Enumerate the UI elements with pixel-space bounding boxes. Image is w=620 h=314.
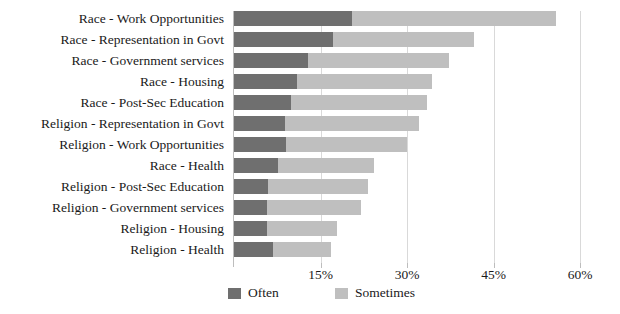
bar-row — [234, 53, 580, 68]
stacked-bar — [234, 11, 556, 26]
bar-row — [234, 95, 580, 110]
category-label: Religion - Housing — [0, 221, 224, 236]
stacked-bar — [234, 221, 337, 236]
stacked-bar — [234, 32, 474, 47]
legend-label: Sometimes — [355, 286, 415, 300]
category-label: Race - Representation in Govt — [0, 32, 224, 47]
category-label: Religion - Work Opportunities — [0, 137, 224, 152]
category-label: Religion - Government services — [0, 200, 224, 215]
bar-row — [234, 221, 580, 236]
bar-segment-sometimes — [267, 221, 337, 236]
bar-segment-sometimes — [308, 53, 449, 68]
bar-segment-sometimes — [297, 74, 433, 89]
stacked-bar — [234, 116, 419, 131]
stacked-bar — [234, 137, 407, 152]
category-label: Religion - Health — [0, 242, 224, 257]
legend-item-often[interactable]: Often — [228, 286, 279, 300]
bar-segment-sometimes — [285, 116, 419, 131]
stacked-bar-chart: Race - Work OpportunitiesRace - Represen… — [0, 0, 620, 314]
stacked-bar — [234, 74, 432, 89]
bar-row — [234, 200, 580, 215]
bar-rows — [234, 11, 580, 263]
category-label: Religion - Post-Sec Education — [0, 179, 224, 194]
bar-segment-sometimes — [333, 32, 474, 47]
bar-segment-often — [234, 32, 333, 47]
category-label: Race - Post-Sec Education — [0, 95, 224, 110]
x-tick-label: 30% — [395, 267, 420, 283]
bar-row — [234, 179, 580, 194]
bar-row — [234, 137, 580, 152]
x-axis-labels: 15%30%45%60% — [0, 267, 620, 287]
bar-segment-sometimes — [286, 137, 407, 152]
stacked-bar — [234, 95, 427, 110]
bar-segment-sometimes — [268, 179, 368, 194]
bar-row — [234, 158, 580, 173]
chart-legend: OftenSometimes — [0, 286, 620, 308]
category-label: Race - Government services — [0, 53, 224, 68]
bar-segment-often — [234, 95, 291, 110]
bar-segment-often — [234, 221, 267, 236]
bar-row — [234, 242, 580, 257]
x-tick-label: 45% — [481, 267, 506, 283]
bar-segment-sometimes — [352, 11, 556, 26]
bar-segment-often — [234, 200, 267, 215]
bar-segment-sometimes — [267, 200, 361, 215]
bar-segment-often — [234, 137, 286, 152]
legend-item-sometimes[interactable]: Sometimes — [335, 286, 415, 300]
bar-row — [234, 116, 580, 131]
bar-row — [234, 74, 580, 89]
bar-row — [234, 11, 580, 26]
stacked-bar — [234, 53, 449, 68]
x-tick-label: 60% — [568, 267, 593, 283]
legend-label: Often — [248, 286, 279, 300]
bar-segment-often — [234, 158, 278, 173]
bar-segment-often — [234, 11, 352, 26]
x-tick-label: 15% — [308, 267, 333, 283]
bar-segment-often — [234, 74, 297, 89]
stacked-bar — [234, 200, 361, 215]
category-label: Race - Housing — [0, 74, 224, 89]
bar-segment-often — [234, 116, 285, 131]
plot-area — [234, 11, 580, 263]
legend-swatch-icon — [335, 288, 348, 299]
gridline-60 — [580, 11, 581, 263]
bar-segment-sometimes — [278, 158, 373, 173]
category-label: Religion - Representation in Govt — [0, 116, 224, 131]
stacked-bar — [234, 179, 368, 194]
bar-segment-sometimes — [291, 95, 427, 110]
bar-segment-often — [234, 53, 308, 68]
category-label: Race - Work Opportunities — [0, 11, 224, 26]
bar-segment-sometimes — [273, 242, 331, 257]
bar-segment-often — [234, 179, 268, 194]
stacked-bar — [234, 242, 331, 257]
bar-row — [234, 32, 580, 47]
category-axis-labels: Race - Work OpportunitiesRace - Represen… — [0, 11, 228, 263]
category-label: Race - Health — [0, 158, 224, 173]
stacked-bar — [234, 158, 374, 173]
legend-swatch-icon — [228, 288, 241, 299]
bar-segment-often — [234, 242, 273, 257]
